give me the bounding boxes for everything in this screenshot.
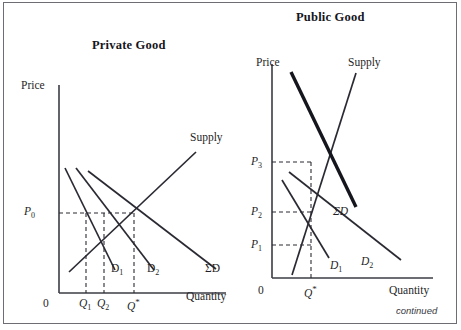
public-y-axis-label: Price (256, 56, 280, 68)
public-demand-sum-curve (291, 72, 356, 207)
private-quantity-tick-qstar: Q* (127, 297, 140, 312)
private-origin-label: 0 (43, 297, 49, 309)
public-demand-d2-label: D2 (361, 255, 373, 270)
private-supply-curve-label: Supply (190, 131, 223, 143)
public-demand-sum-label: ΣD (333, 205, 348, 217)
private-good-title: Private Good (92, 38, 166, 53)
private-x-axis-label: Quantity (186, 290, 226, 302)
private-demand-d1-label: D1 (111, 262, 123, 277)
private-demand-d1-curve (65, 168, 115, 270)
public-quantity-tick-qstar: Q* (304, 284, 317, 299)
private-demand-sum-label: ΣD (205, 262, 220, 274)
public-price-tick-p1: P1 (251, 238, 262, 253)
private-good-chart (59, 85, 226, 293)
public-demand-d1-curve (282, 180, 329, 258)
private-quantity-tick-q1: Q1 (79, 297, 91, 312)
continued-note: continued (396, 305, 437, 316)
plot-canvas (0, 0, 461, 330)
public-supply-curve-label: Supply (348, 56, 381, 68)
private-quantity-tick-q2: Q2 (97, 297, 109, 312)
private-supply-curve (69, 152, 196, 272)
public-demand-d1-label: D1 (330, 259, 342, 274)
public-good-chart (272, 64, 433, 278)
economics-figure: Private Good Public Good Price Quantity … (0, 0, 461, 330)
public-price-tick-p2: P2 (251, 205, 262, 220)
public-origin-label: 0 (258, 284, 264, 296)
public-price-tick-p3: P3 (251, 155, 262, 170)
private-y-axis-label: Price (21, 79, 45, 91)
public-good-title: Public Good (296, 10, 365, 25)
public-x-axis-label: Quantity (389, 284, 429, 296)
private-price-tick-p0: P0 (24, 205, 35, 220)
private-demand-d2-label: D2 (147, 262, 159, 277)
